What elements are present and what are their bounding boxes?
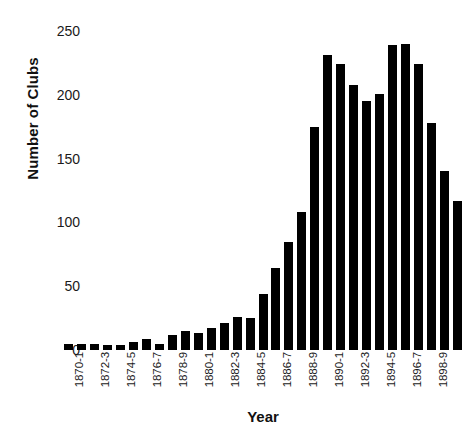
x-axis-tick-label: 1878-9 (177, 352, 189, 387)
bar (336, 64, 345, 350)
bar (181, 331, 190, 350)
x-axis-tick-label: 1886-7 (281, 352, 293, 387)
x-axis-tick-label: 1872-3 (99, 352, 111, 387)
bar (220, 323, 229, 350)
bar (388, 45, 397, 350)
bar (142, 339, 151, 350)
x-axis-tick-label: 1870-1 (73, 352, 85, 387)
x-axis-tick-label: 1890-1 (333, 352, 345, 387)
bar (349, 85, 358, 350)
bar (64, 344, 73, 350)
x-axis-tick-label: 1876-7 (151, 352, 163, 387)
bar (323, 55, 332, 350)
x-axis-tick-label: 1894-5 (385, 352, 397, 387)
x-axis-title: Year (62, 408, 464, 425)
x-axis-tick-label: 1898-9 (437, 352, 449, 387)
bar (414, 64, 423, 350)
x-axis-tick-label: 1880-1 (203, 352, 215, 387)
bar-chart: Number of Clubs 050100150200250 1870-118… (0, 0, 469, 437)
bar (427, 123, 436, 350)
bar (310, 127, 319, 350)
bar (440, 171, 449, 350)
bar (375, 94, 384, 350)
bar (297, 212, 306, 350)
bar (453, 201, 462, 350)
bar (271, 268, 280, 350)
bar (284, 242, 293, 350)
x-axis-tick-label: 1874-5 (125, 352, 137, 387)
bar (362, 101, 371, 350)
bar (259, 294, 268, 350)
bar (77, 344, 86, 350)
bar (116, 345, 125, 350)
bar (168, 335, 177, 350)
x-axis-tick-label: 1892-3 (359, 352, 371, 387)
plot-area (62, 31, 464, 350)
bar (155, 344, 164, 350)
x-axis-tick-label: 1888-9 (307, 352, 319, 387)
bar (246, 318, 255, 350)
bar (90, 344, 99, 350)
x-axis-tick-label: 1884-5 (255, 352, 267, 387)
bar (129, 342, 138, 350)
x-axis-tick-label: 1896-7 (411, 352, 423, 387)
x-axis-tick-labels: 1870-11872-31874-51876-71878-91880-11882… (62, 352, 464, 404)
bar (103, 345, 112, 350)
bar (194, 333, 203, 350)
x-axis-tick-label: 1882-3 (229, 352, 241, 387)
bar (233, 317, 242, 350)
bar (401, 44, 410, 350)
bar (207, 328, 216, 350)
